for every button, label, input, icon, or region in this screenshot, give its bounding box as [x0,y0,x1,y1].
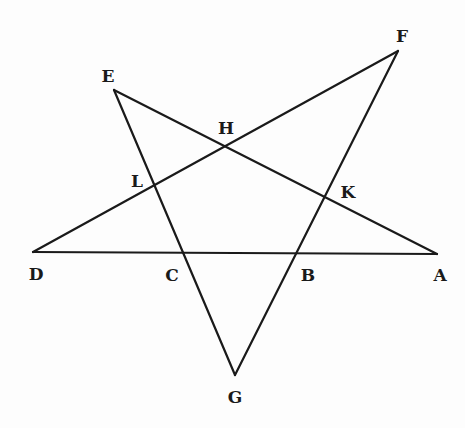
point-label-c: C [165,265,179,285]
point-label-b: B [301,265,315,285]
point-label-a: A [432,265,447,285]
point-label-g: G [228,387,243,407]
point-label-k: K [341,182,357,202]
segment-fg [235,51,398,375]
point-label-f: F [396,26,408,46]
point-label-h: H [218,118,234,138]
point-label-d: D [29,264,44,284]
segment-ea [114,90,437,254]
point-label-e: E [102,66,115,86]
segment-ge [114,90,235,375]
segment-da [33,252,437,254]
segment-df [33,51,398,252]
point-label-l: L [131,171,143,191]
pentagram-diagram: A B C D E F G H K L [0,0,465,428]
